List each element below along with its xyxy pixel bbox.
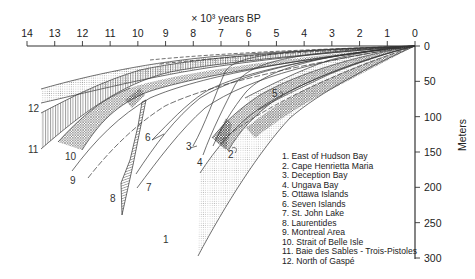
y-tick-label: 50	[424, 75, 436, 87]
curve-label: 4	[197, 157, 203, 168]
x-tick-label: 14	[21, 27, 33, 39]
x-tick-label: 2	[357, 27, 363, 39]
x-tick-label: 1	[384, 27, 390, 39]
y-tick-label: 150	[424, 146, 442, 158]
x-axis-ticks: 14131211109876543210	[21, 27, 418, 46]
x-tick-label: 3	[329, 27, 335, 39]
x-tick-label: 0	[412, 27, 418, 39]
y-tick-label: 250	[424, 217, 442, 229]
x-tick-label: 11	[105, 27, 116, 39]
curve-label: 7	[146, 182, 152, 193]
y-tick-label: 200	[424, 181, 442, 193]
curve-label: 1	[163, 234, 169, 245]
x-tick-label: 5	[274, 27, 280, 39]
curve-8-laurentides	[121, 100, 146, 215]
curve-label: 10	[65, 151, 77, 162]
legend: 1. East of Hudson Bay 2. Cape Henrietta …	[282, 152, 417, 267]
curve-label: 6	[145, 132, 151, 143]
x-tick-label: 9	[163, 27, 169, 39]
x-tick-label: 10	[132, 27, 144, 39]
y-tick-label: 300	[424, 252, 442, 264]
x-tick-label: 4	[301, 27, 307, 39]
x-tick-label: 7	[218, 27, 224, 39]
curve-label: 5	[272, 88, 278, 99]
curve-label: 8	[110, 193, 116, 204]
x-tick-label: 6	[246, 27, 252, 39]
y-axis: 050100150200250300 Meters	[415, 40, 468, 264]
y-axis-ticks: 050100150200250300	[415, 40, 442, 264]
y-tick-label: 0	[424, 40, 430, 52]
curve-label: 12	[28, 103, 40, 114]
curve-label: 2	[228, 149, 234, 160]
y-tick-label: 100	[424, 111, 442, 123]
curve-label: 3	[186, 141, 192, 152]
x-axis: × 10³ years BP 14131211109876543210	[21, 12, 418, 46]
curve-label: 9	[70, 175, 76, 186]
x-tick-label: 13	[49, 27, 61, 39]
x-tick-label: 12	[77, 27, 89, 39]
x-tick-label: 8	[190, 27, 196, 39]
y-axis-title: Meters	[456, 119, 468, 151]
x-axis-title: × 10³ years BP	[191, 12, 261, 24]
legend-item: 12. North of Gaspé	[282, 257, 417, 267]
curve-label: 11	[28, 144, 39, 155]
